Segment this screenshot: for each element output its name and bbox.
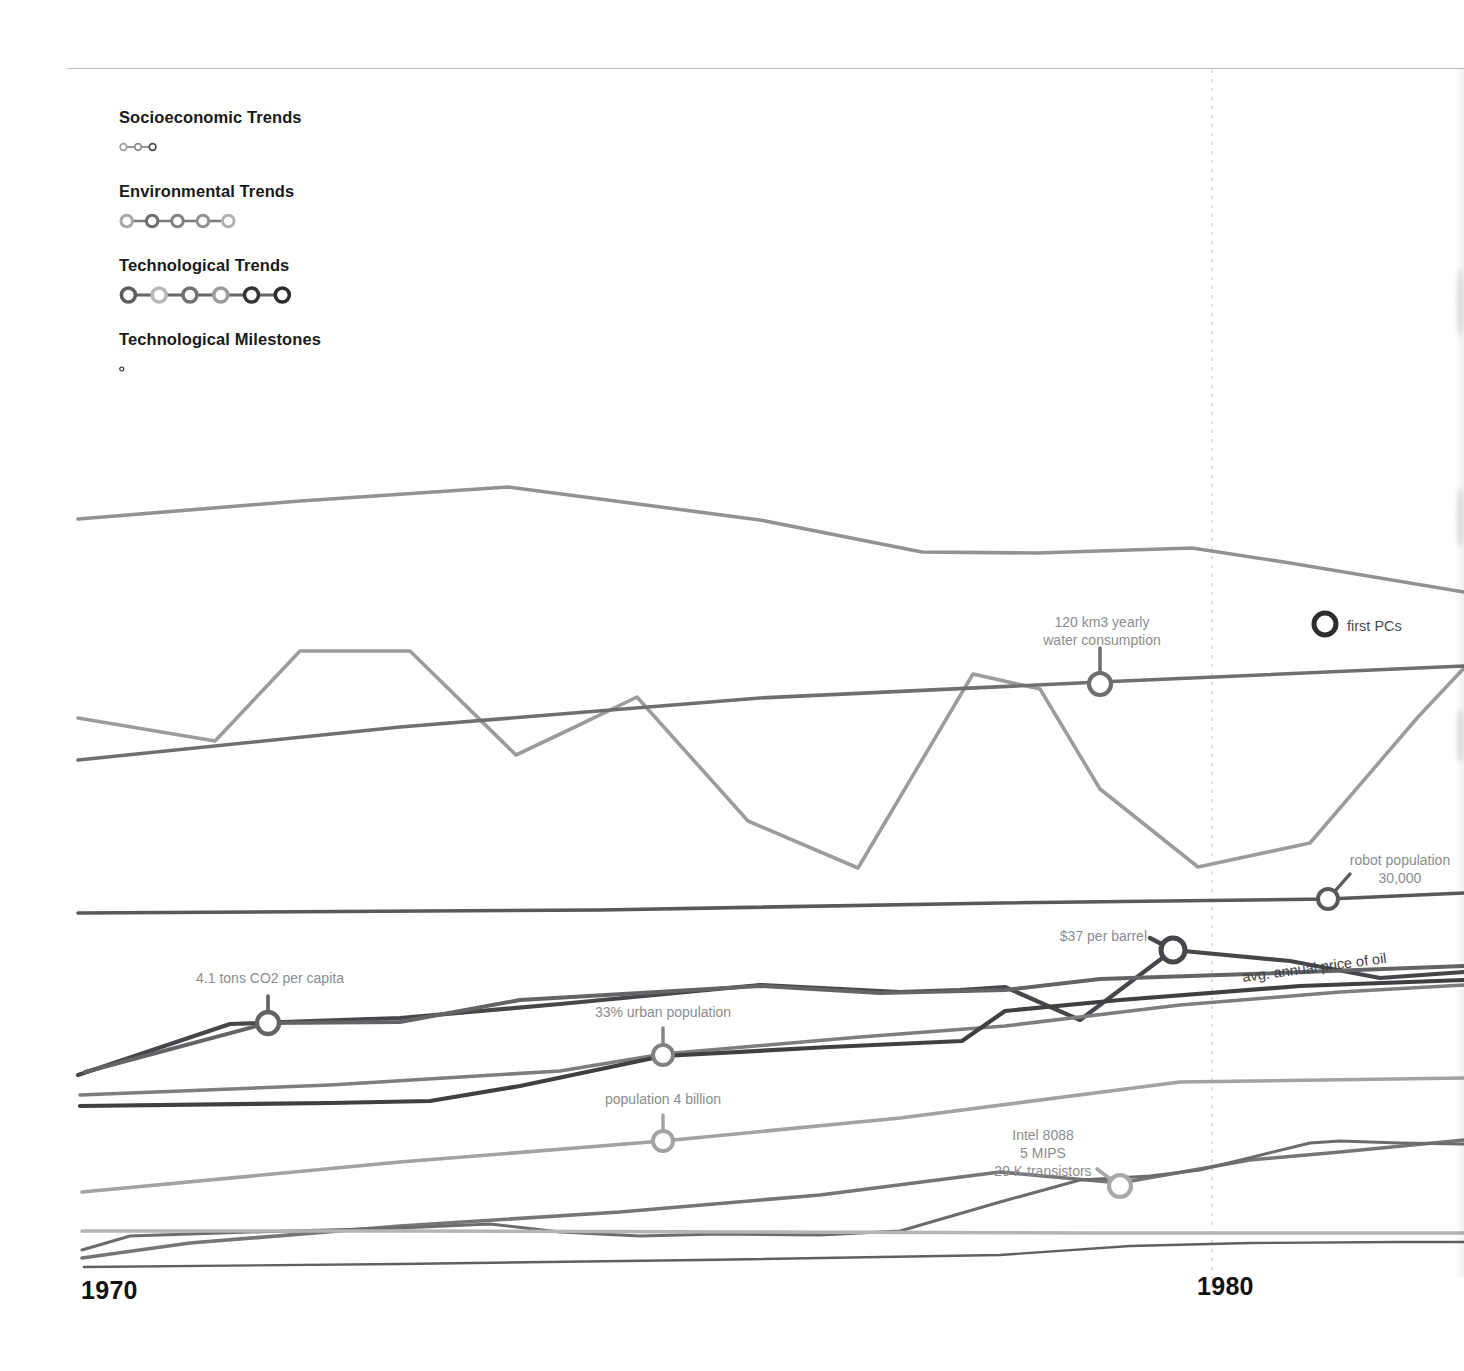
infographic-page: Socioeconomic Trends Environmental Trend… <box>0 0 1464 1371</box>
series-line-computing-power[interactable] <box>82 1140 1464 1258</box>
series-line-paper-consumption[interactable] <box>82 1231 1464 1233</box>
series-line-robot-population[interactable] <box>78 893 1464 913</box>
annotation-label-urban-population: 33% urban population <box>595 1004 731 1020</box>
axis-year-1970: 1970 <box>81 1276 138 1305</box>
annotation-label-intel-8088: Intel 80885 MIPS29 K transistors <box>994 1127 1091 1179</box>
annotation-label-water-consumption: 120 km3 yearlywater consumption <box>1042 614 1161 648</box>
annotation-node-robot-population[interactable] <box>1318 889 1338 909</box>
annotation-node-first-pcs[interactable] <box>1314 613 1336 635</box>
chart-canvas: avg. annual price of oil 120 km3 yearlyw… <box>0 0 1464 1371</box>
series-layer <box>78 487 1464 1267</box>
annotation-oil-price[interactable]: $37 per barrel <box>1060 928 1185 962</box>
annotation-population-4-billion[interactable]: population 4 billion <box>605 1091 721 1151</box>
annotation-label-oil-price: $37 per barrel <box>1060 928 1147 944</box>
series-line-fertilizer-consumption[interactable] <box>78 651 1464 868</box>
annotation-label-population-4-billion: population 4 billion <box>605 1091 721 1107</box>
series-line-world-population[interactable] <box>82 1078 1464 1192</box>
series-line-water-consumption[interactable] <box>78 666 1464 760</box>
annotation-node-intel-8088[interactable] <box>1109 1175 1131 1197</box>
curve-label-avg-annual-price-of-oil: avg. annual price of oil <box>1241 950 1387 985</box>
annotation-node-co2-per-capita[interactable] <box>257 1012 279 1034</box>
annotation-node-population-4-billion[interactable] <box>653 1131 673 1151</box>
annotation-urban-population[interactable]: 33% urban population <box>595 1004 731 1065</box>
annotation-label-co2-per-capita: 4.1 tons CO2 per capita <box>196 970 344 986</box>
annotation-node-oil-price[interactable] <box>1161 938 1185 962</box>
series-line-urban-population[interactable] <box>80 985 1464 1095</box>
annotation-node-water-consumption[interactable] <box>1089 673 1111 695</box>
series-line-energy-use-index[interactable] <box>78 487 1464 592</box>
annotation-intel-8088[interactable]: Intel 80885 MIPS29 K transistors <box>994 1127 1131 1197</box>
annotation-label-first-pcs: first PCs <box>1347 618 1402 634</box>
annotation-label-robot-population: robot population30,000 <box>1350 852 1450 886</box>
annotation-first-pcs[interactable]: first PCs <box>1314 613 1402 635</box>
trend-chart: avg. annual price of oil 120 km3 yearlyw… <box>0 0 1464 1371</box>
annotation-node-urban-population[interactable] <box>653 1045 673 1065</box>
axis-year-1980: 1980 <box>1197 1272 1254 1301</box>
annotation-robot-population[interactable]: robot population30,000 <box>1318 852 1450 909</box>
series-line-motor-vehicles[interactable] <box>84 1242 1464 1267</box>
